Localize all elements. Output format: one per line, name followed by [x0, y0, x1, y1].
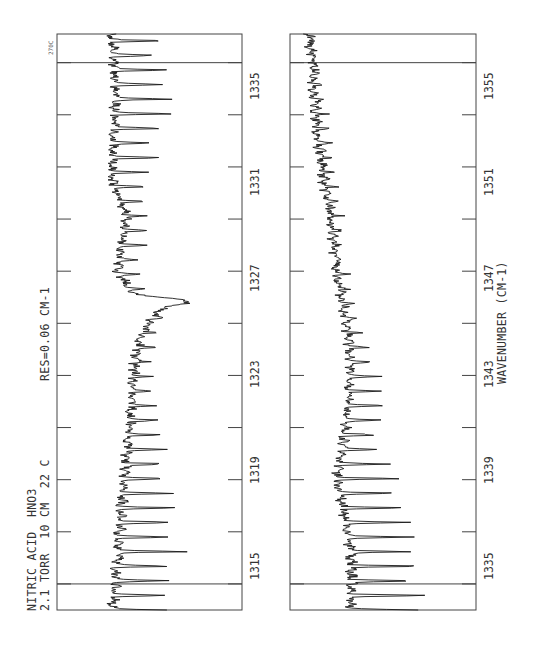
left-spectrum-line: [107, 34, 190, 610]
left-tick-label-1315: 1315: [248, 552, 262, 580]
right-tick-label-1351: 1351: [482, 168, 496, 196]
resolution-label: RES=0.06 CM-1: [38, 287, 52, 381]
corner-label: 270C: [47, 41, 54, 55]
right-spectrum-line: [303, 34, 425, 610]
right-tick-label-1335: 1335: [482, 552, 496, 580]
chart-title: NITRIC ACID HNO3: [25, 488, 39, 611]
left-tick-label-1331: 1331: [248, 168, 262, 196]
left-tick-label-1319: 1319: [248, 456, 262, 484]
right-tick-label-1339: 1339: [482, 456, 496, 484]
spectrum-chart: [0, 0, 535, 650]
left-tick-label-1323: 1323: [248, 360, 262, 388]
left-tick-label-1335: 1335: [248, 72, 262, 100]
right-tick-label-1355: 1355: [482, 72, 496, 100]
right-spectrum-panel: [290, 34, 476, 610]
right-tick-label-1347: 1347: [482, 264, 496, 292]
x-axis-label: WAVENUMBER (CM-1): [495, 261, 509, 384]
right-panel-frame: [290, 34, 476, 610]
chart-conditions: 2.1 TORR 10 CM 22 C: [38, 459, 52, 611]
left-tick-label-1327: 1327: [248, 264, 262, 292]
right-tick-label-1343: 1343: [482, 360, 496, 388]
left-spectrum-panel: [57, 34, 242, 610]
